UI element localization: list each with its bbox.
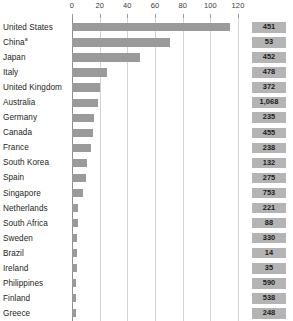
- chart-row: Canada455: [0, 125, 293, 140]
- category-label-text: Netherlands: [3, 204, 48, 213]
- category-footnote-marker: a: [25, 36, 28, 42]
- value-badge: 235: [252, 112, 286, 123]
- value-badge: 372: [252, 82, 286, 93]
- chart-row: Japan452: [0, 50, 293, 65]
- bar: [72, 129, 93, 137]
- x-axis-tick-mark: [238, 14, 239, 18]
- x-axis-tick-label: 120: [232, 1, 245, 10]
- chart-row: Philippines590: [0, 276, 293, 291]
- category-label-text: United Kingdom: [3, 83, 62, 92]
- chart-row: Greece248: [0, 306, 293, 321]
- category-label: United Kingdom: [3, 80, 62, 95]
- bar: [72, 294, 76, 302]
- chart-row: Australia1,068: [0, 95, 293, 110]
- category-label-text: Greece: [3, 309, 30, 318]
- x-axis-tick-mark: [127, 14, 128, 18]
- bar: [72, 219, 78, 227]
- value-badge: 1,068: [252, 97, 286, 108]
- chart-row: United Kingdom372: [0, 80, 293, 95]
- category-label: Singapore: [3, 186, 41, 201]
- chart-row: United States451: [0, 20, 293, 35]
- value-badge: 248: [252, 308, 286, 319]
- x-axis: 020406080100120: [0, 0, 293, 20]
- category-label-text: South Africa: [3, 219, 48, 228]
- chart-row: France238: [0, 140, 293, 155]
- value-badge: 455: [252, 128, 286, 139]
- bar: [72, 144, 91, 152]
- bar: [72, 68, 107, 76]
- category-label-text: Philippines: [3, 279, 43, 288]
- value-badge: 538: [252, 293, 286, 304]
- value-badge: 221: [252, 203, 286, 214]
- value-badge: 452: [252, 52, 286, 63]
- category-label: Chinaa: [3, 35, 28, 50]
- x-axis-tick-label: 60: [151, 1, 160, 10]
- chart-row: Brazil14: [0, 246, 293, 261]
- value-badge: 132: [252, 158, 286, 169]
- horizontal-bar-chart: 020406080100120 United States451Chinaa53…: [0, 0, 293, 321]
- bar: [72, 23, 230, 31]
- bar: [72, 189, 83, 197]
- value-badge: 275: [252, 173, 286, 184]
- value-badge: 451: [252, 22, 286, 33]
- bar: [72, 99, 98, 107]
- category-label: Netherlands: [3, 201, 48, 216]
- chart-rows: United States451Chinaa53Japan452Italy478…: [0, 20, 293, 321]
- value-badge: 53: [252, 37, 286, 48]
- x-axis-tick-mark: [183, 14, 184, 18]
- value-badge: 590: [252, 278, 286, 289]
- category-label: Italy: [3, 65, 18, 80]
- x-axis-tick-label: 40: [123, 1, 132, 10]
- chart-row: Italy478: [0, 65, 293, 80]
- chart-row: Spain275: [0, 170, 293, 185]
- category-label-text: South Korea: [3, 158, 49, 167]
- category-label-text: Brazil: [3, 249, 24, 258]
- x-axis-tick-mark: [210, 14, 211, 18]
- bar: [72, 174, 86, 182]
- chart-row: Netherlands221: [0, 201, 293, 216]
- bar: [72, 114, 94, 122]
- chart-row: Ireland35: [0, 261, 293, 276]
- bar: [72, 249, 77, 257]
- value-badge: 35: [252, 263, 286, 274]
- bar: [72, 234, 77, 242]
- bar: [72, 83, 100, 91]
- chart-row: Finland538: [0, 291, 293, 306]
- chart-row: South Korea132: [0, 155, 293, 170]
- category-label-text: Sweden: [3, 234, 33, 243]
- x-axis-tick-mark: [100, 14, 101, 18]
- category-label: Finland: [3, 291, 30, 306]
- category-label: Philippines: [3, 276, 43, 291]
- chart-row: Singapore753: [0, 186, 293, 201]
- category-label: Ireland: [3, 261, 28, 276]
- category-label: Canada: [3, 125, 32, 140]
- category-label: South Korea: [3, 155, 49, 170]
- category-label-text: Italy: [3, 68, 18, 77]
- x-axis-tick-label: 0: [70, 1, 74, 10]
- category-label-text: Ireland: [3, 264, 28, 273]
- bar: [72, 279, 76, 287]
- x-axis-tick-label: 80: [178, 1, 187, 10]
- category-label-text: Spain: [3, 173, 24, 182]
- category-label-text: Finland: [3, 294, 30, 303]
- chart-row: Germany235: [0, 110, 293, 125]
- x-axis-tick-label: 20: [95, 1, 104, 10]
- category-label: France: [3, 140, 29, 155]
- category-label: Sweden: [3, 231, 33, 246]
- value-badge: 88: [252, 218, 286, 229]
- bar: [72, 38, 170, 46]
- category-label: Japan: [3, 50, 26, 65]
- category-label-text: Singapore: [3, 189, 41, 198]
- category-label-text: Germany: [3, 113, 37, 122]
- bar: [72, 264, 77, 272]
- x-axis-tick-mark: [72, 14, 73, 18]
- bar: [72, 309, 76, 317]
- value-badge: 478: [252, 67, 286, 78]
- value-badge: 330: [252, 233, 286, 244]
- value-badge: 753: [252, 188, 286, 199]
- category-label-text: Japan: [3, 53, 26, 62]
- category-label-text: Australia: [3, 98, 35, 107]
- category-label: Germany: [3, 110, 37, 125]
- category-label: Australia: [3, 95, 35, 110]
- x-axis-tick-mark: [155, 14, 156, 18]
